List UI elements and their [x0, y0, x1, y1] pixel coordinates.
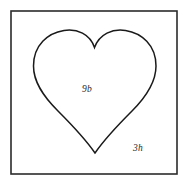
label-lower-right: 3h: [132, 143, 143, 153]
label-inside-heart: 9b: [82, 84, 92, 94]
figure-container: 9b 3h: [0, 0, 189, 185]
heart-diagram: 9b 3h: [0, 0, 189, 185]
figure-background: [0, 0, 189, 185]
